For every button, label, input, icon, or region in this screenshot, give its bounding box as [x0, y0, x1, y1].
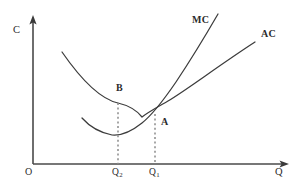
x-tick-q1-base: Q [149, 167, 156, 177]
point-b-label: B [116, 83, 123, 93]
x-tick-q2-base: Q [112, 167, 119, 177]
ac-curve-label: AC [261, 29, 276, 39]
mc-curve [82, 14, 218, 135]
x-tick-q2-subscript: 2 [119, 171, 122, 178]
origin-label: O [25, 167, 32, 177]
x-axis [33, 160, 289, 167]
y-axis-label: C [13, 25, 20, 36]
x-tick-label-q1: Q1 [149, 168, 159, 178]
x-tick-q1-subscript: 1 [156, 171, 159, 178]
x-axis-label: Q [275, 167, 283, 178]
mc-curve-label: MC [192, 15, 209, 25]
x-tick-label-q2: Q2 [112, 168, 122, 178]
figure-canvas [0, 0, 305, 190]
y-axis [29, 15, 36, 164]
point-a-label: A [161, 117, 168, 127]
cost-curve-figure: C Q O MC AC B A Q2 Q1 [0, 0, 305, 190]
